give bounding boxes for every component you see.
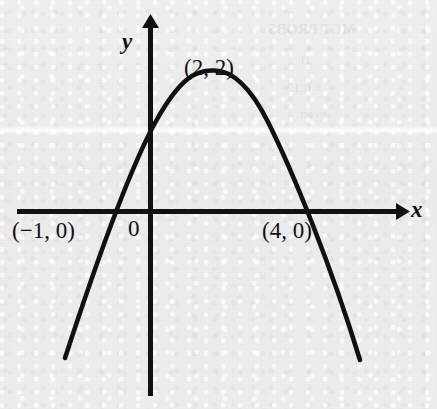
parabola-figure: MCT PROBS II ≡ 0.12 even y x (2, 2) (−1,… [0,0,437,409]
vertex-point-label: (2, 2) [184,56,234,79]
parabola-curve [65,70,360,360]
y-axis-label: y [122,30,132,53]
x-axis [17,203,410,220]
origin-label: 0 [128,217,140,240]
x-axis-arrowhead [396,203,410,220]
right-root-point-label: (4, 0) [262,219,312,242]
left-root-point-label: (−1, 0) [12,219,75,242]
y-axis-arrowhead [142,14,159,28]
x-axis-label: x [411,198,423,221]
y-axis [142,14,159,396]
